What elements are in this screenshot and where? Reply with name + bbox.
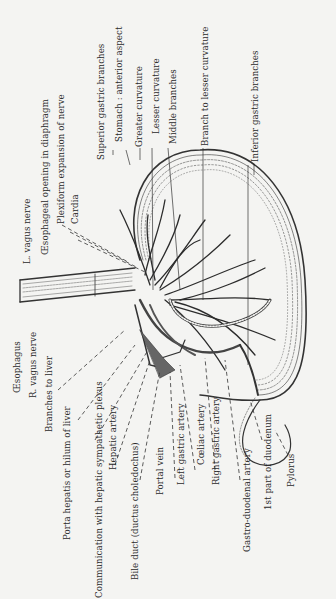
label-inferior-gastric-branches: Inferior gastric branches [250, 50, 260, 162]
label-greater-curvature: Greater curvature [134, 66, 144, 147]
anatomical-diagram: Œsophagus R. vagus nerve Branches to liv… [0, 0, 336, 599]
label-porta-hepatis: Porta hepatis or hilum of liver [62, 406, 72, 540]
label-lesser-curvature: Lesser curvature [151, 58, 161, 134]
label-r-vagus-nerve: R. vagus nerve [28, 332, 38, 398]
label-middle-branches: Middle branches [168, 69, 178, 144]
label-stomach-anterior: Stomach : anterior aspect [114, 27, 124, 142]
label-superior-gastric-branches: Superior gastric branches [96, 44, 106, 160]
label-plexiform-expansion: Plexiform expansion of nerve [56, 94, 66, 224]
label-left-gastric-artery: Left gastric artery [176, 403, 186, 485]
label-1st-part-duodenum: 1st part of duodenum [263, 414, 273, 510]
label-hepatic-artery: Hepatic artery [108, 405, 118, 470]
label-cardia: Cardia [70, 194, 80, 224]
label-pylorus: Pylorus [286, 454, 296, 487]
label-right-gastric-artery: Right gastric artery [211, 397, 221, 485]
label-branches-to-liver: Branches to liver [44, 356, 54, 432]
label-communication-plexus: Communication with hepatic sympathetic p… [94, 381, 104, 598]
label-gastro-duodenal-artery: Gastro-duodenal artery [242, 448, 252, 552]
label-oesophageal-opening: Œsophageal opening in diaphragm [40, 99, 50, 255]
label-l-vagus-nerve: L. vagus nerve [22, 199, 32, 264]
label-branch-lesser-curvature: Branch to lesser curvature [200, 27, 210, 146]
label-coeliac-artery: Cœliac artery [196, 404, 206, 465]
label-portal-vein: Portal vein [155, 447, 165, 495]
label-bile-duct: Bile duct (ductus choledochus) [130, 442, 140, 580]
label-oesophagus: Œsophagus [12, 341, 22, 393]
